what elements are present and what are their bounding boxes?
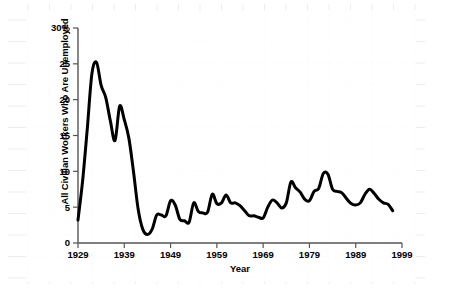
y-tick-label: 25: [59, 58, 70, 69]
y-tick-label: 5: [65, 202, 71, 213]
y-tick-label: 0: [65, 237, 70, 248]
x-tick-label: 1999: [391, 249, 412, 260]
x-tick-labels: 19291939194919591969197919891999: [67, 249, 412, 260]
x-axis-title: Year: [230, 263, 250, 274]
x-tick-label: 1929: [67, 249, 88, 260]
x-tick-label: 1959: [206, 249, 227, 260]
y-tick-label: 10: [59, 166, 70, 177]
y-tick-label: 15: [59, 130, 70, 141]
y-tick-labels: 051015202530%: [51, 22, 71, 248]
x-tick-label: 1989: [345, 249, 366, 260]
x-tick-label: 1969: [253, 249, 274, 260]
x-tick-label: 1949: [160, 249, 181, 260]
chart-canvas: All Civilian Workers Who Are Unemployed …: [26, 10, 416, 282]
y-tick-label: 30%: [51, 22, 71, 33]
x-tick-label: 1939: [114, 249, 135, 260]
line-chart-plot: 051015202530% 19291939194919591969197919…: [26, 10, 416, 282]
chart-page: All Civilian Workers Who Are Unemployed …: [0, 0, 449, 298]
data-line-unemployment-rate: [78, 62, 393, 235]
y-tick-label: 20: [59, 94, 70, 105]
axis-tick-marks: [73, 28, 402, 248]
x-tick-label: 1979: [299, 249, 320, 260]
